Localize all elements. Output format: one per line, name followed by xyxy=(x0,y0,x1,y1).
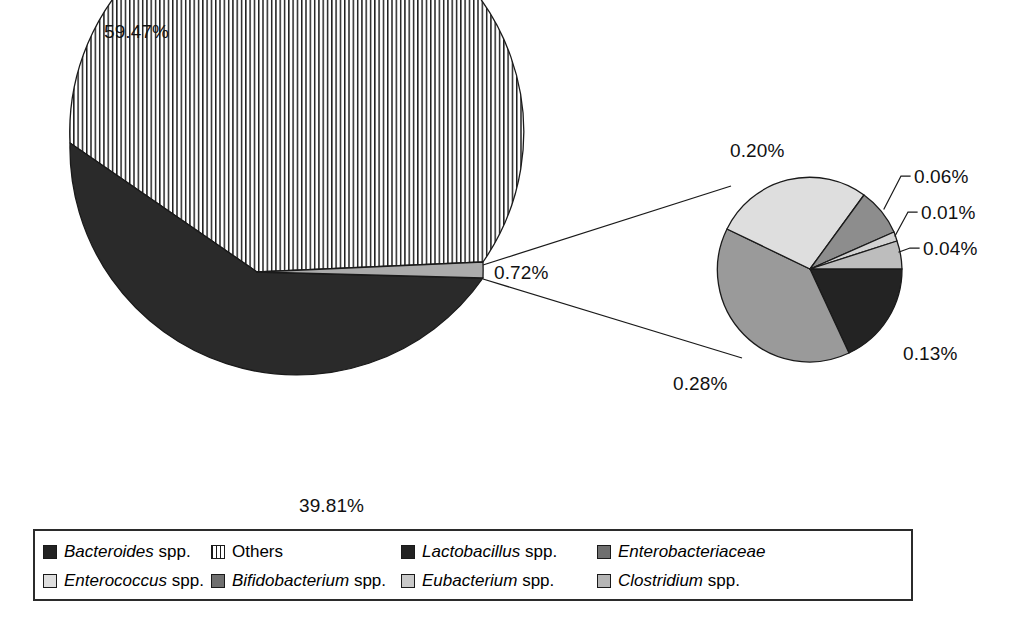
main-pie xyxy=(70,0,524,375)
legend-item-bifidobacterium[interactable]: Bifidobacterium spp. xyxy=(211,572,401,589)
connector-upper xyxy=(483,186,731,265)
legend-taxon-suffix: spp. xyxy=(520,542,557,561)
legend-label: Lactobacillus spp. xyxy=(422,543,557,560)
legend-item-bacteroides[interactable]: Bacteroides spp. xyxy=(43,543,211,560)
leader-eubacterium xyxy=(899,248,919,252)
secondary-pie xyxy=(717,177,902,362)
legend-item-eubacterium[interactable]: Eubacterium spp. xyxy=(401,572,597,589)
legend-swatch-bifidobacterium-icon xyxy=(211,574,225,588)
label-sec-enterococcus: 0.20% xyxy=(730,140,784,161)
legend-item-clostridium[interactable]: Clostridium spp. xyxy=(597,572,827,589)
legend-swatch-lactobacillus-icon xyxy=(401,545,415,559)
legend-item-enterobacteriaceae[interactable]: Enterobacteriaceae xyxy=(597,543,827,560)
legend-swatch-enterobacteriaceae-icon xyxy=(597,545,611,559)
legend: Bacteroides spp.OthersLactobacillus spp.… xyxy=(33,529,913,601)
legend-taxon-name: Lactobacillus xyxy=(422,542,520,561)
label-main-others: 59.47% xyxy=(104,21,169,42)
legend-swatch-enterococcus-icon xyxy=(43,574,57,588)
legend-taxon-name: Enterococcus xyxy=(64,571,167,590)
legend-taxon-suffix: spp. xyxy=(349,571,386,590)
legend-taxon-suffix: spp. xyxy=(154,542,191,561)
label-main-bacteroides: 39.81% xyxy=(299,495,364,516)
leader-enterobacteriaceae xyxy=(884,176,910,209)
legend-swatch-eubacterium-icon xyxy=(401,574,415,588)
legend-taxon-name: Bacteroides xyxy=(64,542,154,561)
leader-clostridium xyxy=(895,212,917,236)
legend-taxon-name: Eubacterium xyxy=(422,571,517,590)
legend-label: Others xyxy=(232,543,283,560)
label-sec-enterobacteriaceae: 0.06% xyxy=(914,166,968,187)
legend-swatch-others-icon xyxy=(211,545,225,559)
legend-taxon-suffix: spp. xyxy=(517,571,554,590)
legend-grid: Bacteroides spp.OthersLactobacillus spp.… xyxy=(43,537,905,595)
legend-item-others[interactable]: Others xyxy=(211,543,401,560)
legend-label: Eubacterium spp. xyxy=(422,572,554,589)
legend-label: Enterococcus spp. xyxy=(64,572,204,589)
connector-lower xyxy=(483,279,742,358)
chart-canvas: 59.47% 39.81% 0.72% 0.20% 0.06% 0.01% 0.… xyxy=(0,0,1015,636)
legend-label: Clostridium spp. xyxy=(618,572,740,589)
label-sec-bifidobacterium: 0.28% xyxy=(673,373,727,394)
legend-taxon-suffix: spp. xyxy=(703,571,740,590)
legend-label: Enterobacteriaceae xyxy=(618,543,765,560)
legend-item-enterococcus[interactable]: Enterococcus spp. xyxy=(43,572,211,589)
legend-item-lactobacillus[interactable]: Lactobacillus spp. xyxy=(401,543,597,560)
label-main-minor: 0.72% xyxy=(494,262,548,283)
legend-taxon-name: Others xyxy=(232,542,283,561)
legend-taxon-name: Enterobacteriaceae xyxy=(618,542,765,561)
legend-taxon-name: Bifidobacterium xyxy=(232,571,349,590)
legend-swatch-bacteroides-icon xyxy=(43,545,57,559)
legend-label: Bifidobacterium spp. xyxy=(232,572,386,589)
label-sec-clostridium: 0.01% xyxy=(921,202,975,223)
legend-taxon-name: Clostridium xyxy=(618,571,703,590)
label-sec-eubacterium: 0.04% xyxy=(923,238,977,259)
legend-taxon-suffix: spp. xyxy=(167,571,204,590)
label-sec-lactobacillus: 0.13% xyxy=(903,343,957,364)
legend-swatch-clostridium-icon xyxy=(597,574,611,588)
legend-label: Bacteroides spp. xyxy=(64,543,191,560)
